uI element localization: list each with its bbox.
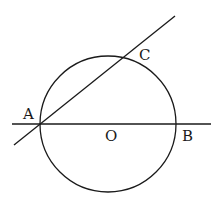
label-a: A [22, 105, 34, 123]
label-c: C [139, 46, 150, 64]
label-b: B [182, 127, 193, 145]
label-o: O [105, 127, 117, 145]
line-ac [14, 16, 175, 145]
geometry-diagram: A O B C [0, 0, 222, 204]
